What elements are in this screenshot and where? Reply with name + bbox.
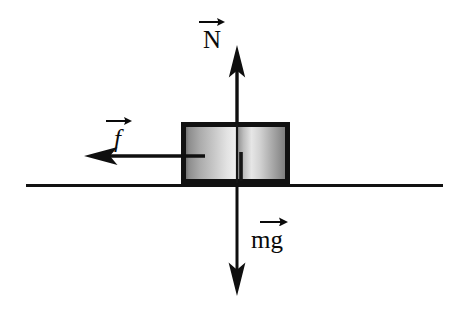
vector-arrow-icon bbox=[105, 113, 133, 125]
normal-force-label: N bbox=[203, 14, 221, 52]
vector-arrow-icon bbox=[259, 214, 289, 226]
weight-force-symbol-wrap: mg bbox=[251, 214, 283, 252]
friction-force-symbol-wrap: f bbox=[112, 113, 124, 151]
friction-force-symbol: f bbox=[114, 125, 121, 152]
block-fill-right bbox=[238, 125, 288, 182]
block bbox=[184, 125, 288, 182]
friction-force-label: f bbox=[112, 113, 124, 151]
diagram-canvas bbox=[0, 0, 463, 313]
normal-force-symbol-wrap: N bbox=[203, 14, 221, 52]
weight-force-label: mg bbox=[251, 214, 283, 252]
normal-force-symbol: N bbox=[203, 26, 221, 53]
block-fill-left bbox=[184, 125, 238, 182]
vector-arrow-icon bbox=[198, 14, 226, 26]
weight-force-symbol: mg bbox=[251, 226, 283, 253]
free-body-diagram: N f mg bbox=[0, 0, 463, 313]
